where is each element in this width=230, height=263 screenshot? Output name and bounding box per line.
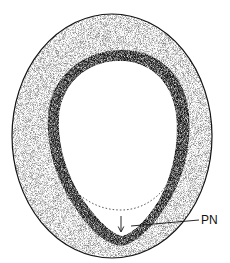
stippled-ring <box>0 0 230 263</box>
pn-label: PN <box>201 213 218 227</box>
oval-ring-diagram <box>0 0 230 263</box>
